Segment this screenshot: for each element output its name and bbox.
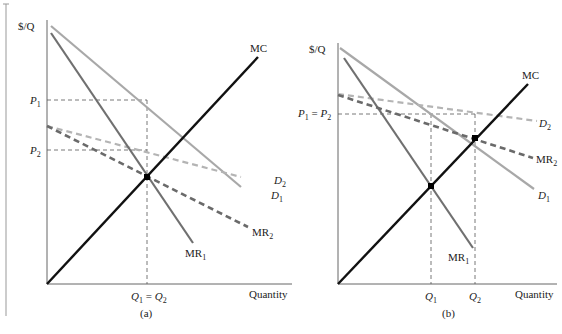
panel-b: $/Q MC P1 = P2 D2 MR2 D1 MR1 Q1 Q2 Quant… <box>297 43 557 320</box>
mr1-label: MR1 <box>185 247 206 262</box>
q1-label: Q1 <box>425 290 437 305</box>
d2-label: D2 <box>273 174 286 189</box>
equilibrium-point-market-2 <box>472 135 478 141</box>
marginal-revenue-mr1 <box>51 33 193 243</box>
mr2-label: MR2 <box>536 153 557 168</box>
marginal-revenue-mr2 <box>338 95 533 158</box>
mc-label: MC <box>250 42 267 54</box>
p1-label: P1 <box>29 94 41 109</box>
marginal-revenue-mr1 <box>344 58 473 248</box>
y-axis-label: $/Q <box>309 43 326 55</box>
x-axis-label: Quantity <box>249 288 288 300</box>
mc-label: MC <box>522 69 539 81</box>
mr2-label: MR2 <box>252 226 273 241</box>
panel-a: $/Q MC P1 P2 D2 D1 MR2 MR1 Q1 = Q2 Quant… <box>18 20 292 320</box>
d1-label: D1 <box>537 189 550 204</box>
x-axis-label: Quantity <box>515 288 554 300</box>
y-axis-label: $/Q <box>18 20 35 32</box>
q2-label: Q2 <box>469 290 481 305</box>
p2-label: P2 <box>29 144 41 159</box>
p-label: P1 = P2 <box>297 107 331 122</box>
demand-curve-d1 <box>340 48 534 189</box>
d2-label: D2 <box>538 117 551 132</box>
panel-caption: (a) <box>140 307 153 320</box>
equilibrium-point <box>144 174 150 180</box>
panel-caption: (b) <box>442 307 455 320</box>
marginal-cost-mc <box>47 57 258 284</box>
equilibrium-point-market-1 <box>428 183 434 189</box>
q-label: Q1 = Q2 <box>131 290 167 305</box>
mr1-label: MR1 <box>448 251 469 266</box>
price-discrimination-diagram: $/Q MC P1 P2 D2 D1 MR2 MR1 Q1 = Q2 Quant… <box>0 0 562 334</box>
d1-label: D1 <box>270 189 283 204</box>
